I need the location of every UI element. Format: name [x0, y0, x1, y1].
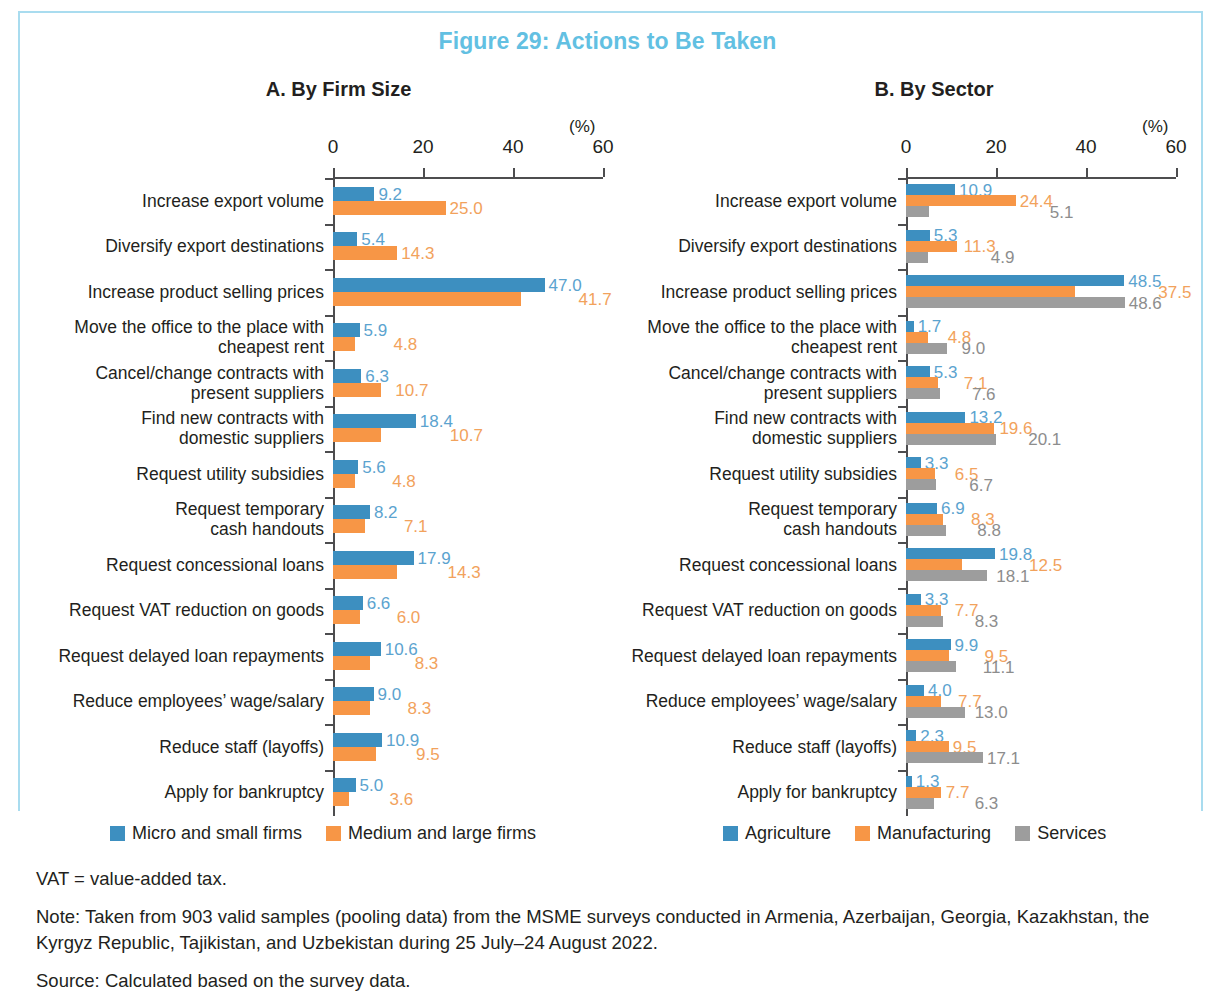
category-tick [325, 497, 333, 499]
bar-medium-and-large-firms [333, 474, 355, 488]
category-label: Request VAT reduction on goods [576, 600, 906, 620]
category-tick [898, 497, 906, 499]
bar-micro-and-small-firms [333, 323, 360, 337]
bar-micro-and-small-firms [333, 232, 357, 246]
category-label: Reduce employees’ wage/salary [3, 691, 333, 711]
x-tick-mark-a-60 [603, 168, 605, 177]
category-tick [325, 451, 333, 453]
chart-row: Request concessional loans19.812.518.1 [906, 542, 1215, 588]
bar-value-label: 8.3 [975, 613, 999, 630]
legend-swatch-icon [1015, 826, 1030, 841]
bar-value-label: 7.1 [404, 518, 428, 535]
chart-row: Cancel/change contracts with present sup… [906, 360, 1215, 406]
chart-row: Find new contracts with domestic supplie… [906, 406, 1215, 452]
bar-agriculture [906, 730, 916, 741]
category-tick [898, 770, 906, 772]
bar-value-label: 20.1 [1028, 431, 1061, 448]
category-tick [898, 360, 906, 362]
bar-manufacturing [906, 286, 1075, 297]
bar-medium-and-large-firms [333, 428, 381, 442]
bar-value-label: 24.4 [1020, 192, 1053, 209]
bar-services [906, 252, 928, 263]
bar-value-label: 10.6 [385, 640, 418, 657]
legend-label: Micro and small firms [132, 823, 302, 844]
legend-swatch-icon [723, 826, 738, 841]
bar-manufacturing [906, 741, 949, 752]
bar-agriculture [906, 321, 914, 332]
legend-item-medium-and-large-firms[interactable]: Medium and large firms [326, 823, 536, 844]
category-tick [898, 724, 906, 726]
note-vat: VAT = value-added tax. [36, 866, 1186, 892]
legend-item-services[interactable]: Services [1015, 823, 1106, 844]
category-label: Request VAT reduction on goods [3, 600, 333, 620]
bar-manufacturing [906, 468, 935, 479]
category-tick [898, 633, 906, 635]
bar-manufacturing [906, 241, 957, 252]
category-label: Request temporary cash handouts [576, 499, 906, 539]
category-tick [325, 679, 333, 681]
legend-swatch-icon [326, 826, 341, 841]
bar-value-label: 9.5 [416, 745, 440, 762]
category-tick [898, 406, 906, 408]
category-label: Apply for bankruptcy [576, 782, 906, 802]
bar-value-label: 4.9 [991, 249, 1015, 266]
bar-agriculture [906, 548, 995, 559]
bar-value-label: 7.6 [972, 385, 996, 402]
category-tick [325, 770, 333, 772]
panel-by-sector: B. By Sector [615, 78, 1215, 106]
category-tick [325, 542, 333, 544]
bar-agriculture [906, 639, 951, 650]
bar-value-label: 8.2 [374, 504, 398, 521]
note-sample: Note: Taken from 903 valid samples (pool… [36, 904, 1186, 956]
category-label: Find new contracts with domestic supplie… [3, 408, 333, 448]
bar-value-label: 5.1 [1050, 203, 1074, 220]
category-label: Cancel/change contracts with present sup… [576, 363, 906, 403]
chart-row: Request temporary cash handouts6.98.38.8 [906, 497, 1215, 543]
bar-services [906, 798, 934, 809]
category-label: Request utility subsidies [576, 464, 906, 484]
category-label: Request temporary cash handouts [3, 499, 333, 539]
bar-value-label: 14.3 [448, 563, 481, 580]
bar-micro-and-small-firms [333, 778, 356, 792]
bar-services [906, 434, 996, 445]
category-label: Reduce employees’ wage/salary [576, 691, 906, 711]
category-tick [898, 542, 906, 544]
bar-value-label: 5.9 [364, 322, 388, 339]
bar-medium-and-large-firms [333, 246, 397, 260]
bar-value-label: 8.3 [415, 654, 439, 671]
legend-b: AgricultureManufacturingServices [723, 823, 1130, 844]
category-tick [325, 360, 333, 362]
chart-row: Increase export volume10.924.45.1 [906, 178, 1215, 224]
bar-manufacturing [906, 195, 1016, 206]
bar-value-label: 12.5 [1029, 556, 1062, 573]
x-tick-label-b-40: 40 [1075, 136, 1096, 158]
legend-label: Agriculture [745, 823, 831, 844]
bar-agriculture [906, 503, 937, 514]
x-tick-mark-a-20 [423, 168, 425, 177]
category-tick [898, 269, 906, 271]
bar-agriculture [906, 184, 955, 195]
legend-item-micro-and-small-firms[interactable]: Micro and small firms [110, 823, 302, 844]
legend-item-agriculture[interactable]: Agriculture [723, 823, 831, 844]
bar-medium-and-large-firms [333, 610, 360, 624]
bar-medium-and-large-firms [333, 519, 365, 533]
bar-value-label: 9.0 [962, 340, 986, 357]
legend-a: Micro and small firmsMedium and large fi… [110, 823, 560, 844]
x-tick-label-a-40: 40 [502, 136, 523, 158]
bar-micro-and-small-firms [333, 414, 416, 428]
x-tick-mark-b-0 [906, 168, 908, 177]
legend-label: Services [1037, 823, 1106, 844]
panel-a-title: A. By Firm Size [10, 78, 625, 106]
chart-row: Move the office to the place with cheape… [906, 315, 1215, 361]
bar-value-label: 5.4 [361, 231, 385, 248]
category-label: Apply for bankruptcy [3, 782, 333, 802]
bar-value-label: 5.6 [362, 458, 386, 475]
legend-label: Manufacturing [877, 823, 991, 844]
bar-medium-and-large-firms [333, 337, 355, 351]
bar-value-label: 6.9 [941, 500, 965, 517]
bar-micro-and-small-firms [333, 278, 545, 292]
legend-item-manufacturing[interactable]: Manufacturing [855, 823, 991, 844]
bar-value-label: 37.5 [1158, 283, 1191, 300]
bar-value-label: 9.2 [378, 185, 402, 202]
bar-manufacturing [906, 514, 943, 525]
